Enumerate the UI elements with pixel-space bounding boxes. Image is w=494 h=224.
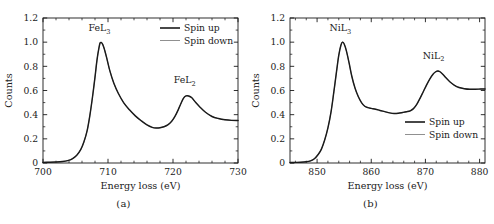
x-tick-label: 870 bbox=[417, 166, 435, 177]
legend-label-spin-down: Spin down bbox=[429, 129, 478, 140]
panel-a-caption: (a) bbox=[0, 198, 247, 209]
peak-label-FeL3: FeL3 bbox=[89, 22, 111, 35]
y-tick-label: 1.2 bbox=[270, 12, 285, 23]
x-tick-label: 880 bbox=[471, 166, 489, 177]
eels-spectra-figure: 70071072073000.20.40.60.81.01.2Energy lo… bbox=[0, 0, 494, 224]
panel-b-caption: (b) bbox=[247, 198, 494, 209]
y-axis-label: Counts bbox=[3, 73, 14, 107]
legend: Spin upSpin down bbox=[160, 22, 233, 46]
y-tick-label: 0.6 bbox=[23, 85, 38, 96]
x-tick-label: 710 bbox=[99, 166, 117, 177]
x-axis-label: Energy loss (eV) bbox=[101, 180, 181, 191]
y-axis-label: Counts bbox=[250, 73, 261, 107]
x-axis-label: Energy loss (eV) bbox=[348, 180, 428, 191]
y-tick-label: 1.0 bbox=[270, 36, 285, 47]
y-tick-label: 0.4 bbox=[23, 109, 38, 120]
y-tick-label: 0.2 bbox=[270, 133, 285, 144]
panel-b-plot: 85086087088000.20.40.60.81.01.2Energy lo… bbox=[247, 0, 494, 200]
y-tick-label: 0 bbox=[32, 157, 38, 168]
y-tick-label: 0.8 bbox=[270, 61, 285, 72]
legend-label-spin-up: Spin up bbox=[429, 116, 465, 127]
legend-label-spin-down: Spin down bbox=[184, 35, 233, 46]
series-line-spin-down bbox=[290, 42, 485, 162]
y-tick-label: 1.2 bbox=[23, 12, 38, 23]
x-tick-label: 860 bbox=[362, 166, 380, 177]
peak-label-FeL2: FeL2 bbox=[174, 74, 196, 87]
series-line-spin-up bbox=[290, 42, 485, 162]
legend: Spin upSpin down bbox=[405, 116, 478, 140]
peak-label-NiL2: NiL2 bbox=[423, 50, 445, 63]
panel-b: 85086087088000.20.40.60.81.01.2Energy lo… bbox=[247, 0, 494, 224]
panel-a-plot: 70071072073000.20.40.60.81.01.2Energy lo… bbox=[0, 0, 247, 200]
plot-frame bbox=[290, 18, 485, 163]
x-tick-label: 720 bbox=[164, 166, 182, 177]
y-tick-label: 0.6 bbox=[270, 85, 285, 96]
legend-label-spin-up: Spin up bbox=[184, 22, 220, 33]
y-tick-label: 0 bbox=[279, 157, 285, 168]
series-line-spin-up bbox=[43, 42, 238, 162]
y-tick-label: 0.8 bbox=[23, 61, 38, 72]
x-tick-label: 850 bbox=[308, 166, 326, 177]
peak-label-NiL3: NiL3 bbox=[330, 22, 352, 35]
panel-a: 70071072073000.20.40.60.81.01.2Energy lo… bbox=[0, 0, 247, 224]
y-tick-label: 0.4 bbox=[270, 109, 285, 120]
y-tick-label: 0.2 bbox=[23, 133, 38, 144]
y-tick-label: 1.0 bbox=[23, 36, 38, 47]
series-line-spin-down bbox=[43, 42, 238, 162]
x-tick-label: 730 bbox=[229, 166, 247, 177]
